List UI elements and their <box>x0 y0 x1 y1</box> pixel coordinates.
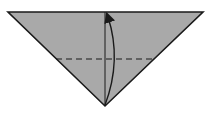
origami-diagram <box>0 0 215 114</box>
